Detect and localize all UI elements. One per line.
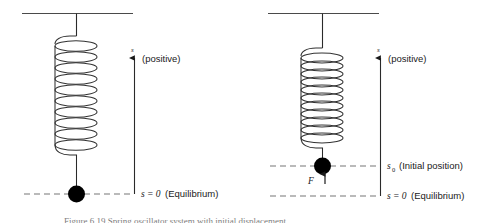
spring-bottom-lead	[55, 145, 77, 186]
spring-coils	[55, 41, 97, 150]
displaced-panel: F s (positive) s 0 (Initial position) s …	[268, 14, 464, 202]
equilibrium-description: (Equilibrium)	[165, 188, 218, 199]
positive-direction-label: (positive)	[142, 53, 181, 64]
equilibrium-panel: s (positive) s = 0 (Equilibrium)	[22, 14, 218, 203]
s-axis-symbol: s	[131, 46, 134, 54]
mass-ball	[314, 158, 331, 175]
equilibrium-symbol: s = 0	[141, 189, 161, 199]
force-symbol: F	[307, 176, 314, 186]
spring-oscillator-figure: s (positive) s = 0 (Equilibrium)	[0, 0, 488, 223]
positive-direction-label: (positive)	[388, 53, 427, 64]
figure-canvas: s (positive) s = 0 (Equilibrium)	[0, 0, 488, 223]
spring-coils	[301, 53, 343, 143]
equilibrium-symbol: s = 0	[387, 191, 407, 201]
figure-caption: Figure 6.19 Spring oscillator system wit…	[64, 216, 286, 223]
s-axis-symbol: s	[377, 46, 380, 54]
initial-position-symbol: s	[387, 161, 391, 171]
equilibrium-description: (Equilibrium)	[411, 190, 464, 201]
mass-ball	[68, 186, 85, 203]
initial-position-subscript: 0	[392, 166, 395, 173]
figure-caption-text: Figure 6.19 Spring oscillator system wit…	[64, 216, 286, 223]
initial-position-description: (Initial position)	[399, 160, 463, 171]
